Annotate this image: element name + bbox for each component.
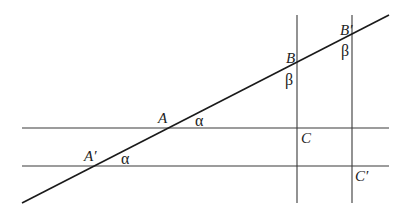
- label-point-c-prime: C′: [355, 169, 368, 184]
- geometry-diagram: A α A′ α B β B′ β C C′: [0, 0, 410, 218]
- label-point-b-prime: B′: [340, 23, 352, 38]
- label-angle-beta-left: β: [285, 72, 293, 88]
- label-point-a-prime: A′: [84, 149, 96, 164]
- label-point-c: C: [301, 131, 311, 146]
- label-angle-alpha-lower: α: [121, 151, 129, 167]
- label-point-a: A: [158, 111, 167, 126]
- label-angle-beta-right: β: [341, 43, 349, 59]
- label-point-b: B: [286, 51, 295, 66]
- transversal-line: [22, 15, 389, 203]
- label-angle-alpha-upper: α: [195, 113, 203, 129]
